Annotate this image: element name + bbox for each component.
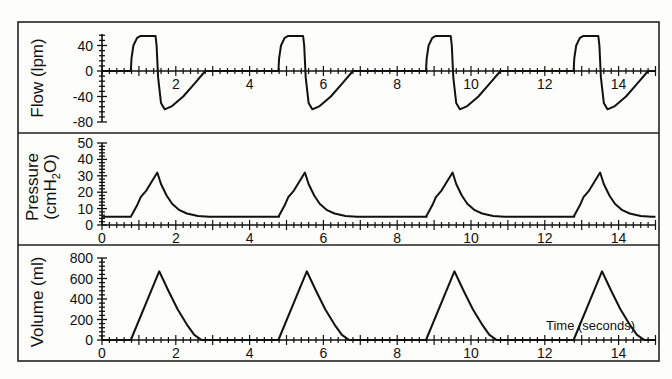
svg-text:Pressure: Pressure	[23, 153, 42, 221]
x-tick-label: 12	[537, 76, 553, 92]
x-tick-label: 14	[611, 345, 627, 361]
y-tick-label: 200	[70, 312, 94, 328]
y-tick-label: 20	[77, 184, 93, 200]
pressure-axis-label: Pressure (cmH2O)	[23, 153, 62, 221]
x-tick-label: 8	[393, 76, 401, 92]
axes-group: 400-40-802468101214504030201000246810121…	[70, 34, 656, 361]
x-tick-label: 10	[463, 76, 479, 92]
x-tick-label: 6	[320, 76, 328, 92]
waveform-traces	[102, 36, 656, 340]
x-tick-label: 6	[320, 345, 328, 361]
y-tick-label: 40	[77, 38, 93, 54]
x-tick-label: 14	[611, 76, 627, 92]
y-tick-label: 50	[77, 135, 93, 151]
x-tick-label: 8	[393, 345, 401, 361]
y-tick-label: -80	[73, 114, 93, 130]
y-tick-label: 600	[70, 271, 94, 287]
flow-axis-label: Flow (lpm)	[28, 38, 47, 117]
y-tick-label: 10	[77, 201, 93, 217]
x-tick-label: 12	[537, 345, 553, 361]
x-tick-label: 10	[463, 230, 479, 246]
flow-waveform	[102, 36, 656, 109]
y-tick-label: 30	[77, 168, 93, 184]
x-tick-label: 12	[537, 230, 553, 246]
x-tick-label: 4	[246, 230, 254, 246]
x-tick-label: 8	[393, 230, 401, 246]
x-tick-label: 0	[98, 345, 106, 361]
pressure-waveform	[102, 173, 656, 217]
y-tick-label: 40	[77, 151, 93, 167]
time-axis-label: Time (seconds)	[546, 318, 635, 333]
x-tick-label: 14	[611, 230, 627, 246]
svg-text:(cmH2O): (cmH2O)	[41, 154, 62, 220]
x-tick-label: 2	[172, 345, 180, 361]
y-tick-label: 800	[70, 250, 94, 266]
y-tick-label: 0	[85, 217, 93, 233]
x-tick-label: 4	[246, 345, 254, 361]
y-tick-label: 400	[70, 291, 94, 307]
x-tick-label: 6	[320, 230, 328, 246]
x-tick-label: 10	[463, 345, 479, 361]
y-tick-label: 0	[85, 332, 93, 348]
x-tick-label: 2	[172, 76, 180, 92]
volume-axis-label: Volume (ml)	[28, 257, 47, 348]
y-tick-label: 0	[85, 63, 93, 79]
flow-axes: 400-40-802468101214	[73, 34, 656, 130]
x-tick-label: 2	[172, 230, 180, 246]
ventilator-waveform-chart: Flow (lpm) Pressure (cmH2O) Volume (ml) …	[0, 0, 672, 379]
y-tick-label: -40	[73, 89, 93, 105]
volume-axes: 800600400200002468101214	[70, 250, 656, 361]
x-tick-label: 4	[246, 76, 254, 92]
x-tick-label: 0	[98, 230, 106, 246]
